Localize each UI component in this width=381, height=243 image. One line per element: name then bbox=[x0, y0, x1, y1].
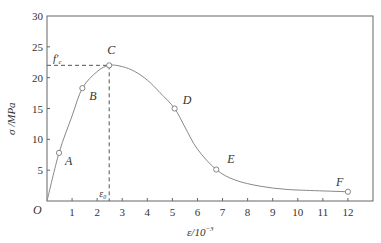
y-tick-label: 25 bbox=[32, 41, 44, 53]
peak-guides: f′cε0 bbox=[47, 52, 109, 201]
point-c-marker bbox=[107, 63, 112, 68]
x-tick-label: 2 bbox=[94, 206, 100, 218]
y-tick-label: 10 bbox=[32, 133, 44, 145]
x-tick-label: 12 bbox=[342, 206, 353, 218]
point-d-marker bbox=[172, 106, 177, 111]
x-axis-label: ε/10−3 bbox=[187, 225, 214, 238]
point-a-marker bbox=[56, 150, 61, 155]
point-a-label: A bbox=[64, 154, 73, 168]
point-c-label: C bbox=[107, 43, 116, 57]
x-tick-label: 6 bbox=[195, 206, 201, 218]
point-f-label: F bbox=[335, 175, 344, 189]
point-e-label: E bbox=[226, 152, 235, 166]
y-axis-label: σ /MPa bbox=[5, 102, 17, 135]
x-tick-label: 11 bbox=[318, 206, 329, 218]
point-e-marker bbox=[214, 167, 219, 172]
y-tick-label: 20 bbox=[32, 72, 44, 84]
x-tick-label: 7 bbox=[220, 206, 226, 218]
x-tick-label: 9 bbox=[270, 206, 276, 218]
point-b-label: B bbox=[89, 89, 97, 103]
key-points: ABCDEF bbox=[56, 43, 350, 194]
peak-strain-label: ε0 bbox=[99, 188, 106, 200]
y-tick-label: 30 bbox=[32, 10, 44, 22]
stress-strain-curve bbox=[47, 65, 348, 201]
x-tick-label: 8 bbox=[245, 206, 251, 218]
y-tick-label: 15 bbox=[32, 103, 44, 115]
point-d-label: D bbox=[182, 93, 192, 107]
point-b-marker bbox=[80, 86, 85, 91]
x-tick-label: 10 bbox=[292, 206, 304, 218]
y-tick-label: 5 bbox=[38, 164, 44, 176]
x-tick-label: 5 bbox=[170, 206, 176, 218]
stress-strain-chart: 51015202530 123456789101112 f′cε0 ABCDEF… bbox=[0, 0, 381, 243]
peak-stress-label: f′c bbox=[53, 52, 62, 66]
x-tick-label: 3 bbox=[119, 206, 125, 218]
origin-label: O bbox=[33, 203, 42, 217]
plot-frame bbox=[47, 16, 373, 201]
x-tick-label: 4 bbox=[145, 206, 151, 218]
x-tick-label: 1 bbox=[69, 206, 75, 218]
point-f-marker bbox=[345, 189, 350, 194]
